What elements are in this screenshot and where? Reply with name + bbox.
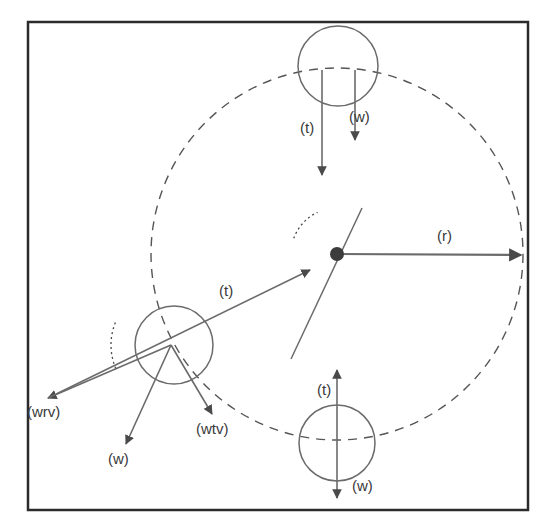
tension-force-top-label: (t): [300, 119, 314, 136]
radius-vector-label: (r): [437, 227, 452, 244]
tangential-weight-component-label: (wtv): [196, 420, 229, 437]
radial-weight-component-label: (wrv): [27, 403, 60, 420]
physics-force-diagram: (t)(w)(wrv)(w)(wtv)(t)(w) (t) (r): [0, 0, 556, 531]
weight-force-bottom-label: (w): [352, 477, 373, 494]
tension-force-bottom-label: (t): [317, 381, 331, 398]
center-pivot: [330, 247, 344, 261]
diagram-root: (t)(w)(wrv)(w)(wtv)(t)(w) (t) (r): [0, 0, 556, 531]
weight-force-left-label: (w): [108, 450, 129, 467]
radius-vector: [337, 254, 521, 255]
weight-force-top-label: (w): [349, 108, 370, 125]
diagram-background: [0, 0, 556, 531]
tension-force-left-label: (t): [219, 282, 233, 299]
